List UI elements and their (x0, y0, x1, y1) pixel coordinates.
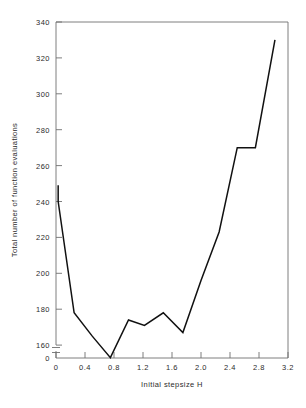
x-axis-title: Initial stepsize H (141, 380, 203, 389)
x-tick-label: 1.2 (137, 363, 149, 372)
y-tick-label: 220 (36, 233, 50, 242)
x-tick-label: 2.8 (253, 363, 265, 372)
y-tick-label: 260 (36, 162, 50, 171)
plot-frame (56, 22, 288, 358)
data-series-line (58, 40, 275, 358)
y-tick-label: 320 (36, 54, 50, 63)
y-tick-label: 280 (36, 126, 50, 135)
y-axis-title: Total number of function evaluations (10, 123, 19, 257)
x-tick-marks (56, 352, 288, 358)
x-tick-label: 1.6 (166, 363, 178, 372)
y-tick-label: 300 (36, 90, 50, 99)
y-tick-label: 240 (36, 198, 50, 207)
y-tick-label: 160 (36, 341, 50, 350)
x-tick-label: 2.4 (224, 363, 236, 372)
y-tick-label: 180 (36, 305, 50, 314)
x-tick-label: 0.4 (79, 363, 91, 372)
y-axis-origin-label: 0 (45, 354, 50, 363)
x-tick-label: 0.8 (108, 363, 120, 372)
y-tick-labels: 340 320 300 280 260 240 220 200 180 160 … (36, 18, 50, 363)
y-tick-marks (56, 22, 62, 345)
x-tick-label: 3.2 (282, 363, 294, 372)
y-tick-label: 340 (36, 18, 50, 27)
y-tick-label: 200 (36, 269, 50, 278)
x-tick-label: 2.0 (195, 363, 207, 372)
x-tick-label: 0 (54, 363, 59, 372)
chart-svg: 340 320 300 280 260 240 220 200 180 160 … (0, 0, 306, 408)
x-tick-labels: 0 0.4 0.8 1.2 1.6 2.0 2.4 2.8 3.2 (54, 363, 294, 372)
